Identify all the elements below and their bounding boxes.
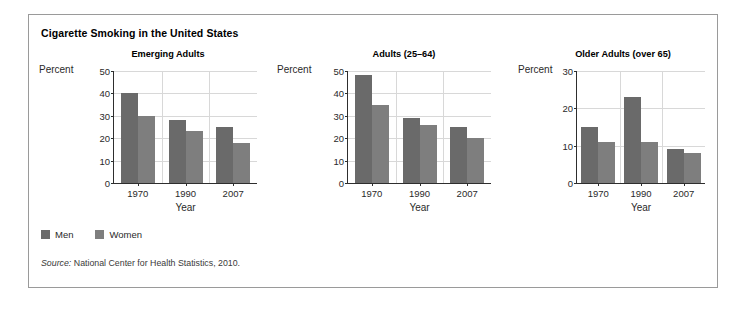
- legend-label: Women: [109, 229, 142, 240]
- plot-area: 0102030 197019902007 Year: [576, 71, 705, 184]
- legend: Men Women: [41, 229, 142, 240]
- bar-group: 1990: [620, 71, 663, 183]
- chart-title: Emerging Adults: [39, 49, 271, 59]
- chart-panel-older-adults: Older Adults (over 65) Percent 0102030 1…: [518, 49, 714, 214]
- x-tick-mark: [138, 183, 139, 186]
- bar-women-1990: [420, 125, 437, 183]
- bar-men-1970: [121, 93, 138, 183]
- source-word: Source:: [41, 258, 71, 268]
- bar-group: 2007: [443, 71, 491, 183]
- y-tick-label: 30: [99, 110, 110, 121]
- x-tick-label: 2007: [673, 188, 694, 199]
- bar-men-2007: [216, 127, 233, 183]
- figure-frame: Cigarette Smoking in the United States E…: [28, 14, 718, 288]
- bar-group: 1990: [396, 71, 444, 183]
- x-tick-label: 1970: [588, 188, 609, 199]
- y-tick-label: 30: [562, 66, 573, 77]
- x-tick-label: 1970: [361, 188, 382, 199]
- x-tick-label: 2007: [457, 188, 478, 199]
- y-tick-label: 30: [333, 110, 344, 121]
- y-tick-label: 0: [339, 178, 344, 189]
- x-tick-mark: [186, 183, 187, 186]
- y-tick-label: 50: [99, 66, 110, 77]
- bar-group: 1970: [114, 71, 162, 183]
- y-tick-label: 10: [99, 155, 110, 166]
- y-tick-label: 40: [99, 88, 110, 99]
- figure-title: Cigarette Smoking in the United States: [41, 27, 239, 39]
- y-tick-mark: [574, 183, 577, 184]
- plot-area: 01020304050 197019902007 Year: [113, 71, 257, 184]
- bar-men-1970: [581, 127, 598, 183]
- bar-group: 2007: [662, 71, 705, 183]
- y-axis-label: Percent: [277, 64, 311, 75]
- bar-group: 1990: [162, 71, 210, 183]
- legend-item-women: Women: [95, 229, 142, 240]
- x-tick-mark: [598, 183, 599, 186]
- x-tick-label: 1970: [127, 188, 148, 199]
- legend-item-men: Men: [41, 229, 73, 240]
- chart-title: Adults (25–64): [277, 49, 509, 59]
- x-tick-label: 1990: [409, 188, 430, 199]
- x-tick-label: 2007: [223, 188, 244, 199]
- x-tick-label: 1990: [630, 188, 651, 199]
- y-tick-label: 50: [333, 66, 344, 77]
- x-tick-mark: [233, 183, 234, 186]
- bar-women-2007: [467, 138, 484, 183]
- source-note: Source: National Center for Health Stati…: [41, 258, 240, 268]
- y-tick-mark: [345, 183, 348, 184]
- x-tick-mark: [467, 183, 468, 186]
- bar-men-1990: [403, 118, 420, 183]
- bar-women-1970: [372, 105, 389, 183]
- bar-men-1990: [169, 120, 186, 183]
- chart-title: Older Adults (over 65): [518, 49, 714, 59]
- legend-label: Men: [55, 229, 73, 240]
- y-tick-label: 20: [333, 133, 344, 144]
- bar-women-1970: [598, 142, 615, 183]
- x-tick-mark: [372, 183, 373, 186]
- bar-women-1990: [186, 131, 203, 183]
- y-axis-label: Percent: [39, 64, 73, 75]
- y-axis-label: Percent: [518, 64, 552, 75]
- y-tick-label: 20: [99, 133, 110, 144]
- x-axis-label: Year: [577, 202, 705, 213]
- y-tick-label: 20: [562, 103, 573, 114]
- y-tick-label: 0: [105, 178, 110, 189]
- bars-layer: 197019902007: [348, 71, 491, 183]
- plot-area: 01020304050 197019902007 Year: [347, 71, 491, 184]
- bar-men-1970: [355, 75, 372, 183]
- bar-group: 1970: [577, 71, 620, 183]
- y-tick-label: 10: [562, 140, 573, 151]
- bar-women-2007: [233, 143, 250, 183]
- x-tick-mark: [641, 183, 642, 186]
- x-tick-mark: [684, 183, 685, 186]
- bar-men-1990: [624, 97, 641, 183]
- legend-swatch-icon: [95, 230, 104, 239]
- bar-women-1970: [138, 116, 155, 183]
- chart-panel-emerging-adults: Emerging Adults Percent 01020304050 1970…: [39, 49, 271, 214]
- y-tick-label: 0: [568, 178, 573, 189]
- bar-group: 1970: [348, 71, 396, 183]
- x-tick-label: 1990: [175, 188, 196, 199]
- bar-men-2007: [450, 127, 467, 183]
- bar-group: 2007: [209, 71, 257, 183]
- x-tick-mark: [420, 183, 421, 186]
- legend-swatch-icon: [41, 230, 50, 239]
- bar-women-2007: [684, 153, 701, 183]
- bars-layer: 197019902007: [114, 71, 257, 183]
- bar-men-2007: [667, 149, 684, 183]
- y-tick-label: 10: [333, 155, 344, 166]
- x-axis-label: Year: [348, 202, 491, 213]
- bar-women-1990: [641, 142, 658, 183]
- source-text: National Center for Health Statistics, 2…: [74, 258, 240, 268]
- y-tick-label: 40: [333, 88, 344, 99]
- x-axis-label: Year: [114, 202, 257, 213]
- bars-layer: 197019902007: [577, 71, 705, 183]
- chart-panel-adults-25-64: Adults (25–64) Percent 01020304050 19701…: [277, 49, 509, 214]
- y-tick-mark: [111, 183, 114, 184]
